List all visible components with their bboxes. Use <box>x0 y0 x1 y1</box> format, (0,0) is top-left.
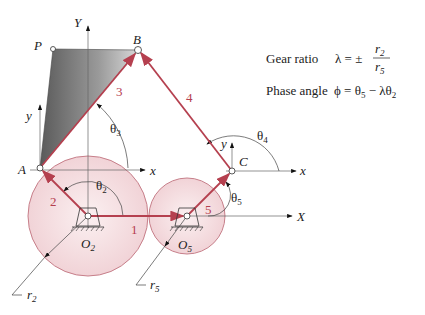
label-Y: Y <box>74 15 83 30</box>
label-C: C <box>239 154 248 169</box>
label-link-3: 3 <box>116 84 123 99</box>
label-local-x-C: x <box>299 163 306 178</box>
label-local-y-C: y <box>219 136 227 151</box>
label-r5: r5 <box>150 277 160 294</box>
label-B: B <box>133 32 141 47</box>
label-theta4: θ4 <box>257 128 268 145</box>
label-link-1: 1 <box>131 222 138 237</box>
joint-C <box>229 168 235 174</box>
label-theta5: θ5 <box>231 190 242 207</box>
label-X: X <box>296 209 306 224</box>
joint-B <box>135 47 142 54</box>
label-theta3: θ3 <box>110 121 121 138</box>
label-P: P <box>33 38 42 53</box>
label-local-y-A: y <box>24 108 32 123</box>
link-4 <box>141 53 232 171</box>
gear-ratio-equation: Gear ratio λ = ± r2 r5 <box>266 41 390 76</box>
phase-angle-label: Phase angle <box>266 83 328 98</box>
gear-ratio-denominator: r5 <box>375 59 385 76</box>
label-r2: r2 <box>27 287 37 304</box>
phase-angle-expression: ϕ = θ5 − λθ2 <box>334 83 396 100</box>
label-link-2: 2 <box>50 194 57 209</box>
label-link-4: 4 <box>186 90 193 105</box>
label-local-x-A: x <box>149 163 156 178</box>
point-P <box>51 47 56 52</box>
gear-ratio-numerator: r2 <box>375 41 385 58</box>
label-A: A <box>17 162 26 177</box>
geared-fivebar-diagram: Y X P B A C y x y x O2 O5 1 2 3 4 5 θ2 θ… <box>0 0 425 315</box>
gear-ratio-label: Gear ratio <box>266 51 318 66</box>
label-link-5: 5 <box>205 202 212 217</box>
gear-ratio-lhs: λ = ± <box>335 51 362 66</box>
joint-A <box>37 165 43 171</box>
phase-angle-equation: Phase angle ϕ = θ5 − λθ2 <box>266 83 396 100</box>
